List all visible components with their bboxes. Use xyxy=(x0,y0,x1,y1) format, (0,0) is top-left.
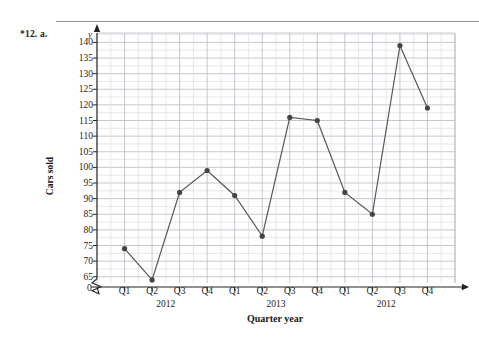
y-axis-break-zigzag xyxy=(92,279,101,294)
x-axis-arrowhead xyxy=(462,284,469,290)
y-axis-arrowhead xyxy=(94,24,100,32)
chart-axes xyxy=(0,0,479,337)
figure-page: *12. a. Cars sold Quarter year y x 0 657… xyxy=(0,0,479,337)
